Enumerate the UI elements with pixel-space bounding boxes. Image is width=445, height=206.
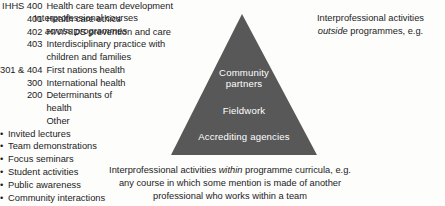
course-name: children and families [46,51,173,64]
bottom-caption-line3: professional who works within a team [60,190,400,203]
left-panel-heading-line1: Interprofessional courses [0,12,172,25]
course-name: Interdisciplinary practice with [46,38,173,51]
bullet-icon: • [0,140,8,153]
bullet-icon: • [0,153,8,166]
right-panel-heading-line2: outside programmes, e.g. [296,25,445,38]
course-row: 301 & 404 First nations health [0,64,173,77]
bottom-caption-line1-post: programme curricula, e.g. [242,165,351,175]
left-panel-heading: Interprofessional courses across program… [0,12,172,37]
bottom-caption-line1: Interprofessional activities within prog… [60,164,400,177]
course-row: 200 Determinants of [0,89,173,102]
course-name: First nations health [46,64,173,77]
course-code [0,102,46,115]
right-panel-heading-line1: Interprofessional activities [296,12,445,25]
pyramid-tier-fieldwork: Fieldwork [166,105,322,116]
course-code: 300 [0,77,46,90]
bottom-caption-line2: any course in which some mention is made… [60,177,400,190]
course-row: 403 Interdisciplinary practice with [0,38,173,51]
course-row: IHHS 400 Health care team development [0,0,173,13]
course-row: children and families [0,51,173,64]
list-item: • Other [0,205,445,206]
bullet-icon: • [0,205,8,206]
list-item-label: Invited lectures [8,128,71,141]
pyramid-tier-community-partners-line2: partners [166,78,322,89]
bullet-icon: • [0,192,8,205]
bullet-icon: • [0,128,8,141]
left-panel-heading-line2: across programmes [0,25,172,38]
right-panel-heading: Interprofessional activities outside pro… [296,12,445,37]
course-code: 403 [0,38,46,51]
bullet-icon: • [0,166,8,179]
course-code: 301 & 404 [0,64,46,77]
course-row: health [0,102,173,115]
course-code: 200 [0,89,46,102]
course-name: health [46,102,173,115]
course-name: Other [46,115,173,128]
list-item-label: Other [8,205,31,206]
bullet-icon: • [0,179,8,192]
course-name: Determinants of [46,89,173,102]
course-row: Other [0,115,173,128]
course-code [0,51,46,64]
bottom-caption: Interprofessional activities within prog… [60,164,400,203]
course-name: Health care team development [46,0,173,13]
right-panel-heading-line2-rest: programmes, e.g. [348,26,423,36]
course-code: IHHS 400 [0,0,46,13]
course-row: 300 International health [0,77,173,90]
pyramid-tier-community-partners-line1: Community [166,67,322,78]
course-code [0,115,46,128]
bottom-caption-line1-italic: within [219,165,243,175]
list-item-label: Team demonstrations [8,140,97,153]
pyramid-tier-accrediting-agencies: Accrediting agencies [166,131,322,142]
bottom-caption-line1-pre: Interprofessional activities [109,165,219,175]
diagram-canvas: Community partners Fieldwork Accrediting… [0,0,445,206]
course-name: International health [46,77,173,90]
pyramid-tier-community-partners: Community partners [166,67,322,90]
right-panel-heading-line2-italic: outside [318,26,348,36]
